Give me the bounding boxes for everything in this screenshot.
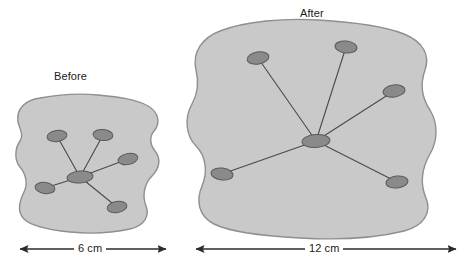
panel-after [187,19,456,249]
cell-blob-after [187,19,436,238]
dimension-label-after: 12 cm [305,242,343,254]
panel-title-after: After [300,7,324,19]
diagram-svg [0,0,469,275]
panel-title-before: Before [54,70,87,82]
figure-canvas: Before After 6 cm 12 cm [0,0,469,275]
panel-before [16,94,166,249]
dimension-label-before: 6 cm [74,242,106,254]
